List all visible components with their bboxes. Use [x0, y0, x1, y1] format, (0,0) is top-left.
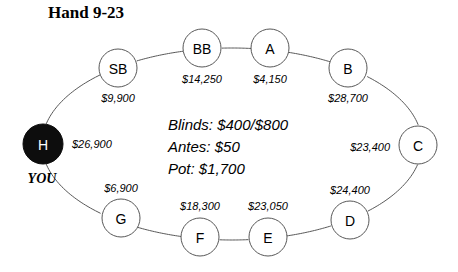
stack-amount-f: $18,300: [179, 200, 221, 212]
hero-you-label: YOU: [28, 171, 58, 186]
seat-label-b: B: [343, 61, 352, 77]
seat-e[interactable]: E: [249, 218, 287, 256]
seat-label-e: E: [263, 230, 272, 246]
table-rim-segment-C-D: [368, 165, 418, 212]
blinds-label: Blinds: $400/$800: [168, 116, 289, 133]
stack-amount-e: $23,050: [247, 200, 289, 212]
seat-d[interactable]: D: [331, 201, 369, 239]
table-rim-segment-F-G: [138, 227, 181, 236]
stack-amount-a: $4,150: [252, 73, 288, 85]
stack-amount-g: $6,900: [103, 182, 139, 194]
seat-a[interactable]: A: [251, 29, 289, 67]
table-rim-segment-B-C: [367, 77, 418, 125]
stack-amount-d: $24,400: [329, 184, 371, 196]
seat-f[interactable]: F: [181, 218, 219, 256]
seat-h[interactable]: H: [23, 124, 63, 164]
antes-label: Antes: $50: [167, 138, 240, 155]
seat-label-f: F: [196, 230, 205, 246]
stack-amount-h: $26,900: [71, 138, 113, 150]
seat-label-a: A: [265, 41, 275, 57]
seat-b[interactable]: B: [329, 49, 367, 87]
seat-label-d: D: [345, 213, 355, 229]
stack-amount-bb: $14,250: [181, 73, 223, 85]
seat-bb[interactable]: BB: [183, 29, 221, 67]
page-title: Hand 9-23: [48, 3, 124, 22]
table-rim-segment-SB-BB: [137, 51, 184, 61]
seat-label-sb: SB: [109, 61, 128, 77]
stack-amount-sb: $9,900: [100, 92, 136, 104]
seat-c[interactable]: C: [399, 126, 437, 164]
seat-sb[interactable]: SB: [99, 49, 137, 87]
stack-amount-c: $23,400: [349, 141, 391, 153]
table-rim-segment-D-E: [287, 226, 331, 236]
seat-label-bb: BB: [193, 41, 212, 57]
table-rim-segment-H-SB: [46, 75, 100, 124]
stack-amount-b: $28,700: [327, 92, 369, 104]
pot-label: Pot: $1,700: [168, 160, 245, 177]
poker-table-diagram: Hand 9-23 H$26,900SB$9,900BB$14,250A$4,1…: [0, 0, 458, 272]
seat-label-c: C: [413, 138, 423, 154]
seat-label-g: G: [116, 211, 127, 227]
seat-g[interactable]: G: [102, 199, 140, 237]
seat-label-h: H: [38, 137, 48, 153]
poker-table-svg: Hand 9-23 H$26,900SB$9,900BB$14,250A$4,1…: [0, 0, 458, 272]
table-rim-segment-A-B: [289, 52, 330, 61]
